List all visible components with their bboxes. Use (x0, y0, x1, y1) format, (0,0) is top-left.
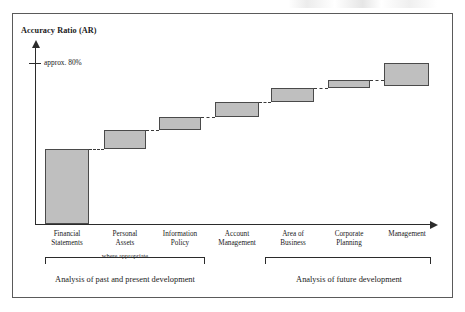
group-bracket-0 (45, 257, 205, 264)
connector-1 (146, 130, 159, 131)
group-caption-0: Analysis of past and present development (35, 275, 215, 284)
category-label-4: Area ofBusiness (261, 230, 325, 248)
bar-2 (159, 117, 201, 130)
bar-3 (215, 102, 259, 117)
y-axis-tick-label: approx. 80% (44, 58, 82, 67)
y-axis-title: Accuracy Ratio (AR) (21, 26, 97, 35)
bar-6 (384, 63, 429, 86)
bar-0 (45, 149, 89, 224)
figure-frame: Accuracy Ratio (AR) approx. 80% Financia… (12, 13, 453, 298)
group-caption-1: Analysis of future development (261, 275, 437, 284)
x-axis-line (35, 224, 431, 225)
connector-5 (370, 80, 384, 81)
connector-3 (259, 102, 271, 103)
bar-1 (104, 130, 146, 149)
category-label-6: Management (373, 230, 441, 239)
bar-5 (328, 80, 370, 88)
x-axis-arrow-icon (430, 221, 438, 229)
connector-0 (89, 149, 104, 150)
y-axis-arrow-icon (32, 40, 40, 48)
bar-4 (271, 88, 314, 102)
chart-plot-area: Accuracy Ratio (AR) approx. 80% Financia… (13, 14, 454, 299)
y-axis-tick-mark (29, 63, 41, 64)
group-bracket-1 (265, 257, 431, 264)
scan-artifact-top (0, 0, 465, 8)
y-axis-line (35, 47, 36, 225)
connector-2 (201, 117, 215, 118)
category-label-5: CorporatePlanning (317, 230, 381, 248)
category-label-0: FinancialStatements (35, 230, 99, 248)
connector-4 (314, 88, 328, 89)
